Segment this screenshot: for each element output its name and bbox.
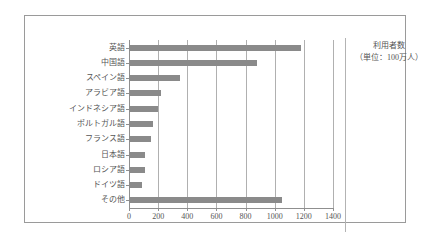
category-label: その他: [29, 196, 125, 204]
x-axis-tick-label: 400: [181, 212, 193, 221]
x-axis-tick-label: 1400: [325, 212, 341, 221]
legend-title: 利用者数: [351, 40, 427, 52]
y-axis-tick: [126, 139, 129, 140]
bar: [129, 197, 282, 203]
y-axis-tick: [126, 185, 129, 186]
x-axis-tick-label: 0: [127, 212, 131, 221]
category-label: ポルトガル語: [29, 120, 125, 128]
category-label: 日本語: [29, 151, 125, 159]
bar-row: [129, 55, 333, 70]
x-axis-baseline: [129, 208, 333, 209]
bar-row: [129, 147, 333, 162]
bar-row: [129, 162, 333, 177]
x-axis-tick-label: 600: [210, 212, 222, 221]
bar: [129, 90, 161, 96]
y-axis-tick: [126, 109, 129, 110]
category-label: 英語: [29, 44, 125, 52]
y-axis-tick: [126, 124, 129, 125]
bar-row: [129, 177, 333, 192]
bar: [129, 121, 153, 127]
category-label: アラビア語: [29, 89, 125, 97]
x-axis-tick: [246, 208, 247, 211]
bar: [129, 75, 180, 81]
gridline: [333, 40, 334, 208]
bar-row: [129, 116, 333, 131]
x-axis-tick-label: 1200: [296, 212, 312, 221]
x-axis-tick: [216, 208, 217, 211]
x-axis-tick: [129, 208, 130, 211]
bar-row: [129, 193, 333, 208]
y-axis-tick: [126, 155, 129, 156]
y-axis-tick: [126, 170, 129, 171]
category-label: スペイン語: [29, 74, 125, 82]
bar: [129, 106, 158, 112]
bar: [129, 45, 301, 51]
bar-row: [129, 40, 333, 55]
category-label: 中国語: [29, 59, 125, 67]
bar-row: [129, 101, 333, 116]
category-label: ドイツ語: [29, 181, 125, 189]
x-axis-tick-label: 200: [152, 212, 164, 221]
x-axis-tick: [275, 208, 276, 211]
legend-unit: （単位：100万人）: [351, 52, 427, 64]
y-axis-tick: [126, 200, 129, 201]
bar-row: [129, 71, 333, 86]
chart-figure: 英語中国語スペイン語アラビア語インドネシア語ポルトガル語フランス語日本語ロシア語…: [0, 0, 430, 239]
bar-row: [129, 86, 333, 101]
category-label: フランス語: [29, 135, 125, 143]
chart-frame: 英語中国語スペイン語アラビア語インドネシア語ポルトガル語フランス語日本語ロシア語…: [24, 15, 406, 223]
y-axis-tick: [126, 93, 129, 94]
bar: [129, 136, 151, 142]
x-axis-tick-label: 800: [240, 212, 252, 221]
legend-divider: [345, 38, 346, 232]
category-label: インドネシア語: [29, 105, 125, 113]
y-axis-tick: [126, 48, 129, 49]
x-axis-tick: [304, 208, 305, 211]
bar: [129, 182, 142, 188]
y-axis-tick: [126, 63, 129, 64]
bar: [129, 167, 145, 173]
bar-row: [129, 132, 333, 147]
x-axis-tick: [158, 208, 159, 211]
x-axis-tick: [333, 208, 334, 211]
legend-caption: 利用者数 （単位：100万人）: [351, 40, 427, 63]
y-axis-tick: [126, 78, 129, 79]
plot-area: 0200400600800100012001400: [129, 40, 333, 208]
category-label: ロシア語: [29, 166, 125, 174]
x-axis-tick-label: 1000: [267, 212, 283, 221]
bar: [129, 60, 257, 66]
bar: [129, 152, 145, 158]
category-axis-labels: 英語中国語スペイン語アラビア語インドネシア語ポルトガル語フランス語日本語ロシア語…: [27, 40, 125, 208]
x-axis-tick: [187, 208, 188, 211]
